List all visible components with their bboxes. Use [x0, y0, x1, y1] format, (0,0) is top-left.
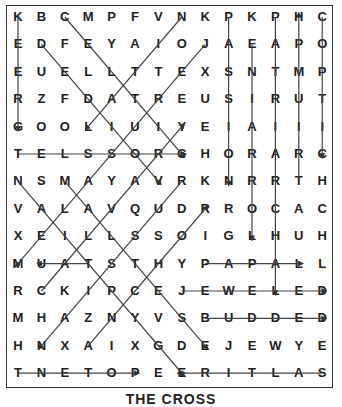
grid-cell[interactable]: S	[78, 144, 98, 164]
grid-cell[interactable]: N	[31, 363, 51, 383]
grid-cell[interactable]: I	[148, 34, 168, 54]
grid-cell[interactable]: F	[55, 89, 75, 109]
grid-cell[interactable]: H	[148, 254, 168, 274]
grid-cell[interactable]: I	[289, 117, 309, 137]
grid-cell[interactable]: S	[172, 308, 192, 328]
grid-cell[interactable]: L	[78, 117, 98, 137]
grid-cell[interactable]: T	[78, 254, 98, 274]
grid-cell[interactable]: R	[148, 144, 168, 164]
grid-cell[interactable]: E	[31, 226, 51, 246]
grid-cell[interactable]: A	[31, 199, 51, 219]
grid-cell[interactable]: R	[265, 171, 285, 191]
grid-cell[interactable]: S	[312, 363, 332, 383]
grid-cell[interactable]: X	[125, 336, 145, 356]
grid-cell[interactable]: E	[31, 144, 51, 164]
grid-cell[interactable]: N	[8, 171, 28, 191]
grid-cell[interactable]: W	[265, 336, 285, 356]
grid-cell[interactable]: I	[312, 117, 332, 137]
grid-cell[interactable]: S	[148, 226, 168, 246]
grid-cell[interactable]: O	[312, 34, 332, 54]
grid-cell[interactable]: M	[55, 171, 75, 191]
grid-cell[interactable]: E	[195, 281, 215, 301]
grid-cell[interactable]: R	[219, 199, 239, 219]
grid-cell[interactable]: P	[102, 281, 122, 301]
grid-cell[interactable]: I	[265, 117, 285, 137]
grid-cell[interactable]: A	[242, 117, 262, 137]
grid-cell[interactable]: U	[219, 308, 239, 328]
grid-cell[interactable]: X	[8, 226, 28, 246]
grid-cell[interactable]: A	[265, 254, 285, 274]
grid-cell[interactable]: B	[31, 7, 51, 27]
grid-cell[interactable]: M	[289, 62, 309, 82]
grid-cell[interactable]: D	[242, 308, 262, 328]
grid-cell[interactable]: F	[55, 34, 75, 54]
grid-cell[interactable]: O	[102, 363, 122, 383]
grid-cell[interactable]: A	[78, 336, 98, 356]
grid-cell[interactable]: H	[312, 226, 332, 246]
grid-cell[interactable]: K	[8, 7, 28, 27]
grid-cell[interactable]: K	[242, 7, 262, 27]
grid-cell[interactable]: L	[55, 199, 75, 219]
grid-cell[interactable]: A	[265, 144, 285, 164]
grid-cell[interactable]: W	[219, 281, 239, 301]
grid-cell[interactable]: E	[55, 363, 75, 383]
grid-cell[interactable]: R	[148, 89, 168, 109]
grid-cell[interactable]: O	[219, 144, 239, 164]
grid-cell[interactable]: H	[265, 226, 285, 246]
grid-cell[interactable]: D	[312, 308, 332, 328]
grid-cell[interactable]: E	[289, 308, 309, 328]
grid-cell[interactable]: A	[78, 171, 98, 191]
grid-cell[interactable]: H	[31, 308, 51, 328]
grid-cell[interactable]: I	[102, 336, 122, 356]
grid-cell[interactable]: T	[312, 89, 332, 109]
grid-cell[interactable]: S	[125, 226, 145, 246]
grid-cell[interactable]: T	[289, 171, 309, 191]
grid-cell[interactable]: A	[219, 254, 239, 274]
grid-cell[interactable]: E	[195, 336, 215, 356]
grid-cell[interactable]: Y	[102, 171, 122, 191]
grid-cell[interactable]: A	[265, 34, 285, 54]
grid-cell[interactable]: A	[125, 171, 145, 191]
grid-cell[interactable]: C	[172, 144, 192, 164]
grid-cell[interactable]: A	[125, 34, 145, 54]
grid-cell[interactable]: T	[125, 89, 145, 109]
grid-cell[interactable]: S	[219, 62, 239, 82]
grid-cell[interactable]: R	[8, 281, 28, 301]
grid-cell[interactable]: C	[312, 199, 332, 219]
grid-cell[interactable]: J	[219, 336, 239, 356]
grid-cell[interactable]: E	[312, 336, 332, 356]
grid-cell[interactable]: A	[219, 34, 239, 54]
grid-cell[interactable]: U	[125, 117, 145, 137]
grid-cell[interactable]: A	[289, 363, 309, 383]
grid-cell[interactable]: E	[148, 281, 168, 301]
grid-cell[interactable]: R	[8, 89, 28, 109]
grid-cell[interactable]: L	[312, 254, 332, 274]
grid-cell[interactable]: H	[312, 171, 332, 191]
grid-cell[interactable]: I	[102, 117, 122, 137]
grid-cell[interactable]: T	[265, 62, 285, 82]
grid-cell[interactable]: D	[78, 89, 98, 109]
grid-cell[interactable]: T	[78, 363, 98, 383]
grid-cell[interactable]: R	[195, 363, 215, 383]
grid-cell[interactable]: E	[172, 363, 192, 383]
grid-cell[interactable]: Z	[78, 308, 98, 328]
grid-cell[interactable]: S	[219, 89, 239, 109]
grid-cell[interactable]: P	[289, 34, 309, 54]
grid-cell[interactable]: E	[78, 34, 98, 54]
grid-cell[interactable]: B	[195, 308, 215, 328]
grid-cell[interactable]: R	[242, 171, 262, 191]
grid-cell[interactable]: P	[265, 7, 285, 27]
grid-cell[interactable]: E	[172, 62, 192, 82]
grid-cell[interactable]: G	[8, 117, 28, 137]
grid-cell[interactable]: C	[312, 7, 332, 27]
grid-cell[interactable]: P	[195, 254, 215, 274]
grid-cell[interactable]: E	[242, 34, 262, 54]
grid-cell[interactable]: P	[242, 254, 262, 274]
grid-cell[interactable]: K	[195, 171, 215, 191]
grid-cell[interactable]: L	[242, 226, 262, 246]
grid-cell[interactable]: T	[8, 144, 28, 164]
grid-cell[interactable]: Y	[172, 117, 192, 137]
grid-cell[interactable]: O	[242, 199, 262, 219]
grid-cell[interactable]: K	[195, 7, 215, 27]
grid-cell[interactable]: P	[219, 7, 239, 27]
